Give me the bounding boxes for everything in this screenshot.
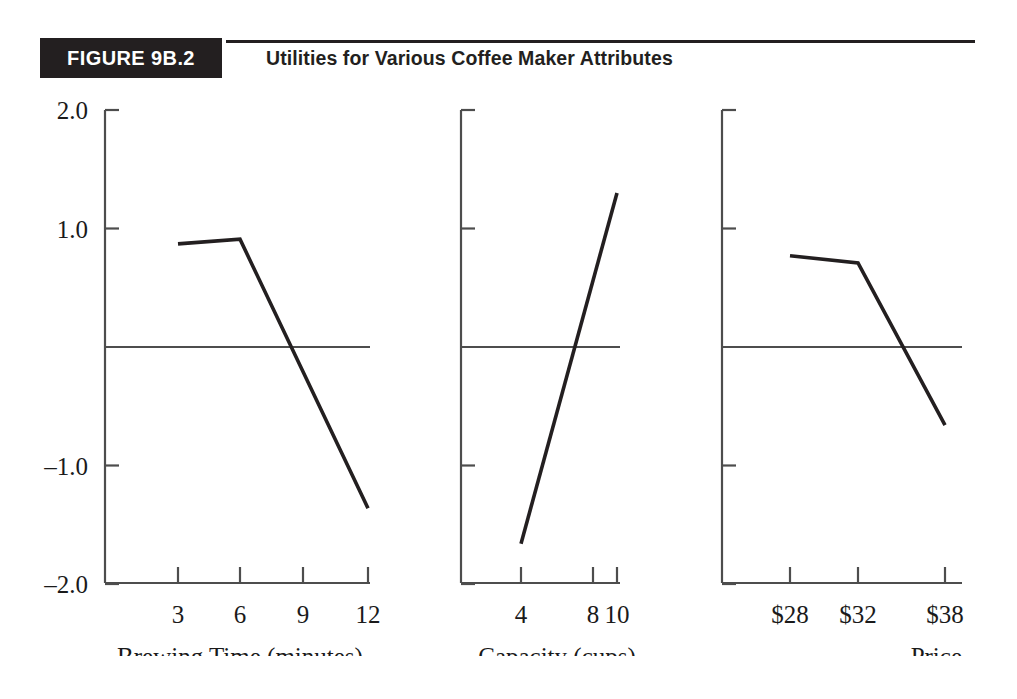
header-rule bbox=[226, 40, 975, 43]
panel-price: $28$32$38Price bbox=[722, 110, 964, 656]
x-axis-title-capacity: Capacity (cups) bbox=[478, 643, 636, 656]
x-tick-label-price-1: $32 bbox=[839, 601, 877, 628]
figure-number-label: FIGURE 9B.2 bbox=[67, 47, 195, 70]
figure-header: FIGURE 9B.2 Utilities for Various Coffee… bbox=[40, 38, 975, 82]
utilities-line-charts: 36912Brewing Time (minutes)4810Capacity … bbox=[0, 96, 1017, 656]
figure-container: FIGURE 9B.2 Utilities for Various Coffee… bbox=[0, 0, 1017, 699]
x-axis-title-brewing-time: Brewing Time (minutes) bbox=[117, 643, 363, 656]
data-line-capacity bbox=[521, 193, 617, 544]
x-axis-title-price: Price bbox=[911, 643, 962, 656]
panel-capacity: 4810Capacity (cups) bbox=[461, 110, 636, 656]
x-tick-label-brewing-time-1: 6 bbox=[234, 601, 247, 628]
x-tick-label-capacity-1: 8 bbox=[587, 601, 600, 628]
data-line-price bbox=[790, 256, 945, 425]
x-tick-label-price-0: $28 bbox=[771, 601, 809, 628]
y-axis-label-3: –2.0 bbox=[43, 571, 88, 598]
y-axis-label-1: 1.0 bbox=[57, 216, 88, 243]
figure-title: Utilities for Various Coffee Maker Attri… bbox=[266, 47, 673, 70]
x-tick-label-brewing-time-0: 3 bbox=[172, 601, 185, 628]
y-axis-label-0: 2.0 bbox=[57, 97, 88, 124]
panel-brewing-time: 36912Brewing Time (minutes) bbox=[105, 110, 381, 656]
y-axis-labels: 2.01.0–1.0–2.0 bbox=[43, 97, 88, 598]
x-tick-label-brewing-time-3: 12 bbox=[356, 601, 381, 628]
y-axis-label-2: –1.0 bbox=[43, 453, 88, 480]
x-tick-label-capacity-2: 10 bbox=[605, 601, 630, 628]
x-tick-label-capacity-0: 4 bbox=[515, 601, 528, 628]
plots-area: 36912Brewing Time (minutes)4810Capacity … bbox=[0, 96, 1017, 656]
figure-number-badge: FIGURE 9B.2 bbox=[40, 38, 222, 78]
x-tick-label-price-2: $38 bbox=[926, 601, 964, 628]
x-tick-label-brewing-time-2: 9 bbox=[297, 601, 310, 628]
data-line-brewing-time bbox=[178, 239, 368, 508]
